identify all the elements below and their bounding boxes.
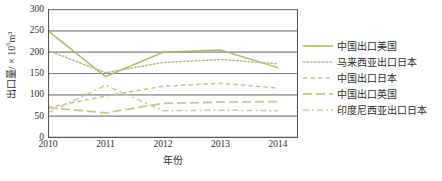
legend-swatch-dotted-icon xyxy=(303,57,333,67)
y-tick-100: 100 xyxy=(16,90,44,100)
legend-item-malaysia-to-japan[interactable]: 马来西亚出口日本 xyxy=(303,54,442,70)
legend-swatch-dashed-long-icon xyxy=(303,89,333,99)
y-tick-50: 50 xyxy=(16,112,44,122)
x-tick-2014: 2014 xyxy=(255,139,301,149)
x-tick-2011: 2011 xyxy=(83,139,129,149)
legend-label-china-to-uk: 中国出口英国 xyxy=(337,89,397,100)
legend-label-china-to-usa: 中国出口美国 xyxy=(337,41,397,52)
legend-label-china-to-japan: 中国出口日本 xyxy=(337,73,397,84)
x-axis-title: 年份 xyxy=(48,152,298,167)
y-tick-150: 150 xyxy=(16,69,44,79)
x-tick-2010: 2010 xyxy=(25,139,71,149)
legend-swatch-solid-icon xyxy=(303,41,333,51)
series-line-china-to-japan xyxy=(48,83,278,107)
legend-item-china-to-japan[interactable]: 中国出口日本 xyxy=(303,70,442,86)
x-axis-tick-labels: 2010 2011 2012 2013 2014 xyxy=(48,139,298,153)
line-chart-figure: 出口量/ × 106m³ 300 250 200 150 100 50 0 xyxy=(0,0,442,181)
legend-item-china-to-usa[interactable]: 中国出口美国 xyxy=(303,38,442,54)
series-line-china-to-usa xyxy=(48,31,278,77)
legend-label-malaysia-to-japan: 马来西亚出口日本 xyxy=(337,57,417,68)
legend-swatch-dash-dot-icon xyxy=(303,105,333,115)
x-tick-2013: 2013 xyxy=(198,139,244,149)
plot-area xyxy=(48,9,298,138)
legend-label-indonesia-to-japan: 印度尼西亚出口日本 xyxy=(337,105,427,116)
chart-legend: 中国出口美国 马来西亚出口日本 中国出口日本 中国出口英国 印度尼西亚出口日本 xyxy=(303,38,442,118)
x-tick-2012: 2012 xyxy=(140,139,186,149)
y-tick-300: 300 xyxy=(16,5,44,15)
y-axis-title-exponent: 6 xyxy=(4,43,11,46)
legend-swatch-dashed-short-icon xyxy=(303,73,333,83)
series-line-malaysia-to-japan xyxy=(48,51,278,73)
y-tick-200: 200 xyxy=(16,48,44,58)
y-tick-250: 250 xyxy=(16,26,44,36)
series-line-indonesia-to-japan xyxy=(48,85,278,113)
plot-svg xyxy=(48,9,298,138)
legend-item-indonesia-to-japan[interactable]: 印度尼西亚出口日本 xyxy=(303,102,442,118)
y-axis-tick-labels: 300 250 200 150 100 50 0 xyxy=(14,0,44,140)
legend-item-china-to-uk[interactable]: 中国出口英国 xyxy=(303,86,442,102)
